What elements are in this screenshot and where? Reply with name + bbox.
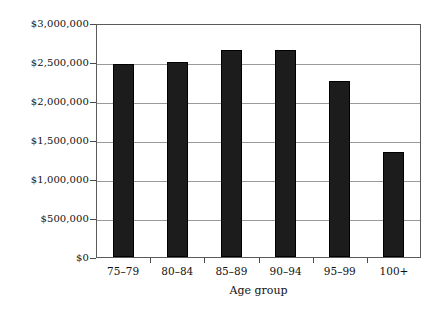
x-axis-ticks — [96, 258, 421, 263]
y-tick-label: $0 — [3, 253, 89, 263]
x-axis-labels: 75–7980–8485–8990–9495–99100+ — [96, 265, 421, 277]
bar-slot — [366, 25, 420, 257]
x-tick-label: 95–99 — [313, 265, 367, 277]
bar-slot — [205, 25, 259, 257]
y-axis: $0$500,000$1,000,000$1,500,000$2,000,000… — [0, 0, 89, 324]
x-tick-mark — [150, 258, 151, 263]
bar-slot — [97, 25, 151, 257]
x-tick-label: 100+ — [367, 265, 421, 277]
x-tick-mark — [204, 258, 205, 263]
x-tick-label: 90–94 — [259, 265, 313, 277]
bar — [383, 152, 404, 257]
bar-slot — [151, 25, 205, 257]
bar — [329, 81, 350, 257]
y-tick-label: $1,500,000 — [3, 136, 89, 146]
y-tick-label: $1,000,000 — [3, 175, 89, 185]
bar — [275, 50, 296, 257]
bar-slot — [312, 25, 366, 257]
plot-area — [96, 24, 421, 258]
bar-slot — [258, 25, 312, 257]
y-tick-label: $2,000,000 — [3, 97, 89, 107]
x-tick-mark — [367, 258, 368, 263]
x-tick-label: 75–79 — [96, 265, 150, 277]
x-tick-mark — [313, 258, 314, 263]
bar — [167, 62, 188, 257]
x-tick-label: 80–84 — [150, 265, 204, 277]
y-tick-label: $2,500,000 — [3, 58, 89, 68]
y-tick-label: $3,000,000 — [3, 19, 89, 29]
bar-series — [97, 25, 420, 257]
x-tick-label: 85–89 — [204, 265, 258, 277]
y-tick-label: $500,000 — [3, 214, 89, 224]
x-tick-mark — [259, 258, 260, 263]
bar-chart-figure: $0$500,000$1,000,000$1,500,000$2,000,000… — [0, 0, 443, 324]
bar — [113, 64, 134, 257]
bar — [221, 50, 242, 257]
x-axis-title: Age group — [96, 284, 421, 297]
